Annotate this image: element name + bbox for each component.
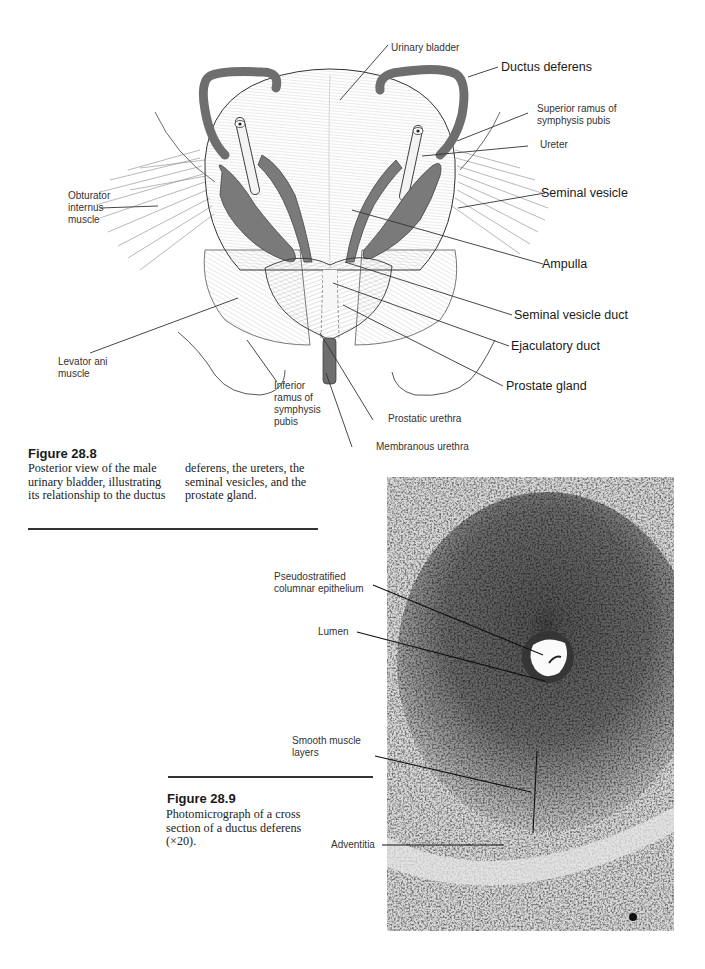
figure-28-9-caption: Photomicrograph of a cross section of a … bbox=[166, 808, 306, 849]
label-seminal-vesicle-duct: Seminal vesicle duct bbox=[514, 308, 628, 322]
label-ureter: Ureter bbox=[540, 139, 568, 151]
figure-28-8-title: Figure 28.8 bbox=[28, 446, 97, 461]
figure-28-9-title: Figure 28.9 bbox=[167, 791, 236, 806]
label-pseudostratified-epithelium: Pseudostratified columnar epithelium bbox=[274, 571, 379, 595]
label-obturator-internus: Obturator internus muscle bbox=[68, 190, 120, 226]
figure-28-8-caption-col2: deferens, the ureters, the seminal vesic… bbox=[185, 462, 323, 503]
figure-28-8-illustration bbox=[0, 0, 705, 470]
label-smooth-muscle-layers: Smooth muscle layers bbox=[292, 735, 372, 759]
label-adventitia: Adventitia bbox=[331, 839, 375, 851]
label-ductus-deferens: Ductus deferens bbox=[501, 60, 592, 74]
figure-28-9-divider bbox=[168, 776, 373, 778]
label-urinary-bladder: Urinary bladder bbox=[391, 42, 459, 54]
label-ejaculatory-duct: Ejaculatory duct bbox=[511, 339, 600, 353]
figure-28-8-divider bbox=[28, 528, 318, 530]
figure-28-8-caption-col1: Posterior view of the male urinary bladd… bbox=[28, 462, 170, 503]
label-superior-ramus: Superior ramus of symphysis pubis bbox=[537, 103, 657, 127]
label-ampulla: Ampulla bbox=[542, 257, 587, 271]
label-seminal-vesicle: Seminal vesicle bbox=[541, 186, 628, 200]
label-levator-ani: Levator ani muscle bbox=[58, 356, 110, 380]
label-membranous-urethra: Membranous urethra bbox=[376, 441, 469, 453]
label-lumen: Lumen bbox=[318, 626, 349, 638]
label-prostate-gland: Prostate gland bbox=[506, 379, 587, 393]
label-inferior-ramus: Inferior ramus of symphysis pubis bbox=[274, 380, 326, 428]
label-prostatic-urethra: Prostatic urethra bbox=[388, 413, 461, 425]
ductus-deferens-photomicrograph bbox=[387, 477, 674, 931]
